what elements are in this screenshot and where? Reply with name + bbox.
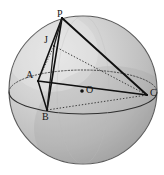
vertex-dot-C — [146, 94, 148, 96]
vertex-dot-J — [53, 45, 55, 47]
center-label-O: O — [86, 85, 93, 95]
vertex-label-C: C — [150, 88, 157, 98]
vertex-label-J: J — [44, 35, 48, 45]
center-point-O-dot — [80, 89, 84, 93]
geometry-figure: P J A B C O — [0, 0, 164, 175]
vertex-label-A: A — [26, 70, 33, 80]
sphere-diagram-canvas — [0, 0, 164, 175]
vertex-label-B: B — [42, 112, 49, 122]
vertex-dot-A — [37, 80, 39, 82]
vertex-label-P: P — [57, 9, 63, 19]
